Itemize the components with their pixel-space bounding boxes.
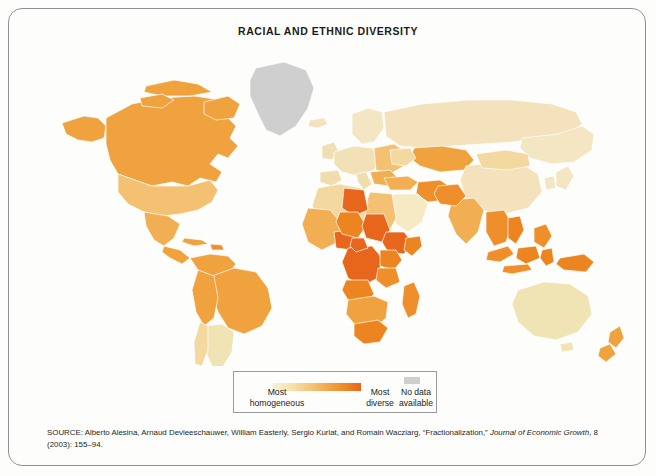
page-root: RACIAL AND ETHNIC DIVERSITY — [0, 0, 656, 476]
world-map — [22, 46, 634, 366]
legend-nodata-line2: available — [397, 398, 435, 409]
legend-homogeneous-line1: Most — [240, 387, 314, 398]
legend-homogeneous-line2: homogeneous — [240, 398, 314, 409]
legend-gradient-bar — [273, 377, 361, 385]
region-hispaniola — [210, 244, 224, 250]
source-journal: Journal of Economic Growth — [490, 428, 589, 437]
region-mongolia — [476, 150, 530, 170]
legend-label-nodata: No data available — [397, 387, 435, 409]
region-tasmania — [560, 342, 574, 352]
page-title: RACIAL AND ETHNIC DIVERSITY — [0, 25, 656, 37]
region-korea — [544, 176, 556, 190]
legend-nodata-swatch — [404, 377, 420, 384]
source-citation: SOURCE: Alberto Alesina, Arnaud Devleesc… — [47, 427, 617, 450]
map-legend: Most homogeneous Most diverse No data av… — [233, 371, 437, 413]
source-prefix: SOURCE: Alberto Alesina, Arnaud Devleesc… — [47, 428, 490, 437]
world-map-svg — [22, 46, 634, 366]
legend-nodata-line1: No data — [397, 387, 435, 398]
legend-label-homogeneous: Most homogeneous — [240, 387, 314, 409]
